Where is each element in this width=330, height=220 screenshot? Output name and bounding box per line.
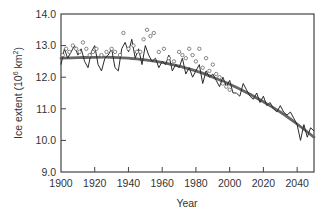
- ice-extent-chart: 9.010.011.012.013.014.0 1900192019401960…: [0, 0, 330, 220]
- observation-point: [228, 88, 231, 91]
- x-tick-label: 1960: [151, 177, 175, 189]
- plot-area: [61, 14, 314, 172]
- x-axis-ticks: [95, 167, 297, 172]
- observation-point: [208, 69, 211, 72]
- observation-point: [218, 76, 221, 79]
- observation-point: [127, 47, 130, 50]
- x-tick-label: 1900: [49, 177, 73, 189]
- observation-point: [145, 28, 148, 31]
- y-tick-label: 14.0: [36, 8, 57, 20]
- plot-frame: [61, 14, 314, 172]
- observation-point: [142, 38, 145, 41]
- observation-point: [91, 50, 94, 53]
- observation-point: [61, 53, 64, 56]
- observation-point: [152, 31, 155, 34]
- y-tick-label: 10.0: [36, 134, 57, 146]
- y-tick-label: 9.0: [41, 166, 56, 178]
- observation-point: [194, 60, 197, 63]
- observation-point: [184, 57, 187, 60]
- observation-point: [122, 31, 125, 34]
- observation-point: [139, 50, 142, 53]
- x-tick-label: 1940: [117, 177, 141, 189]
- x-tick-label: 1980: [184, 177, 208, 189]
- observation-point: [100, 53, 103, 56]
- observation-point: [75, 47, 78, 50]
- observation-point: [201, 66, 204, 69]
- observation-point: [211, 63, 214, 66]
- observation-point: [221, 82, 224, 85]
- y-tick-label: 12.0: [36, 71, 57, 83]
- observation-point: [188, 47, 191, 50]
- observation-point: [64, 47, 67, 50]
- fitted-trend-curve: [61, 57, 314, 137]
- x-tick-label: 2000: [218, 177, 242, 189]
- observation-point: [172, 60, 175, 63]
- observation-point: [167, 57, 170, 60]
- observation-point: [132, 44, 135, 47]
- x-axis-tick-labels: 19001920194019601980200020202040: [49, 177, 309, 189]
- observation-point: [81, 41, 84, 44]
- x-tick-label: 2020: [252, 177, 276, 189]
- observation-point: [225, 85, 228, 88]
- observation-point: [118, 53, 121, 56]
- observation-point: [71, 44, 74, 47]
- observation-point: [85, 47, 88, 50]
- observation-point: [177, 50, 180, 53]
- x-axis-title: Year: [176, 197, 198, 209]
- observation-point: [149, 34, 152, 37]
- annual-extent-line: [61, 39, 314, 140]
- y-axis-title: Ice extent (106 km2): [12, 47, 24, 139]
- y-tick-label: 11.0: [36, 103, 56, 115]
- observation-point: [191, 53, 194, 56]
- y-tick-label: 13.0: [36, 39, 57, 51]
- observation-point: [113, 50, 116, 53]
- observation-point: [110, 47, 113, 50]
- x-tick-label: 2040: [285, 177, 309, 189]
- observation-point: [95, 47, 98, 50]
- observation-point: [204, 57, 207, 60]
- observation-point: [105, 50, 108, 53]
- observation-point: [181, 53, 184, 56]
- y-axis-tick-labels: 9.010.011.012.013.014.0: [36, 8, 57, 178]
- observation-point: [135, 50, 138, 53]
- observation-point: [88, 53, 91, 56]
- observation-point: [215, 72, 218, 75]
- observation-point: [198, 47, 201, 50]
- observation-point: [78, 50, 81, 53]
- x-tick-label: 1920: [83, 177, 107, 189]
- observation-point: [157, 50, 160, 53]
- observation-point: [162, 47, 165, 50]
- observation-point: [68, 50, 71, 53]
